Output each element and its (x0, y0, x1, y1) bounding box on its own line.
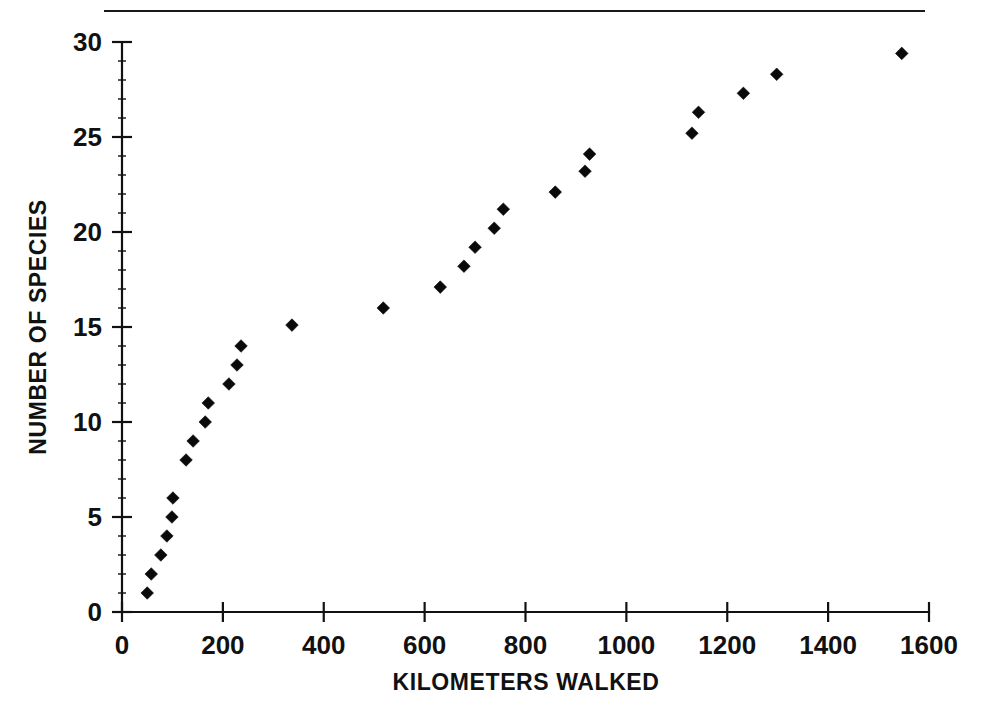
data-point-marker (231, 359, 244, 372)
y-axis-tick-label: 30 (73, 27, 102, 57)
x-axis-tick-label: 200 (201, 630, 244, 660)
x-axis-tick-label: 400 (302, 630, 345, 660)
data-point-marker (223, 378, 236, 391)
axes-group (122, 42, 929, 612)
x-axis-tick-label: 1000 (597, 630, 655, 660)
data-point-marker (161, 530, 174, 543)
data-point-marker (895, 47, 908, 60)
data-point-marker (434, 281, 447, 294)
x-axis-tick-label: 1400 (799, 630, 857, 660)
data-point-marker (549, 186, 562, 199)
data-point-marker (180, 454, 193, 467)
data-point-marker (141, 587, 154, 600)
data-point-marker (469, 241, 482, 254)
x-axis-tick-label: 1200 (698, 630, 756, 660)
data-point-marker (145, 568, 158, 581)
data-point-marker (202, 397, 215, 410)
data-point-marker (167, 492, 180, 505)
data-point-marker (155, 549, 168, 562)
x-axis-title: KILOMETERS WALKED (392, 669, 659, 695)
x-axis-tick-labels: 02004006008001000120014001600 (115, 630, 958, 660)
data-point-marker (187, 435, 200, 448)
x-axis-tick-label: 800 (504, 630, 547, 660)
x-axis-tick-label: 1600 (900, 630, 958, 660)
y-axis-tick-label: 15 (73, 312, 102, 342)
y-axis-tick-label: 0 (88, 597, 102, 627)
scatter-plot-canvas: 051015202530 020040060080010001200140016… (0, 0, 985, 712)
data-point-marker (199, 416, 212, 429)
y-axis-tick-label: 5 (88, 502, 102, 532)
data-point-marker (235, 340, 248, 353)
x-axis-tick-label: 0 (115, 630, 129, 660)
data-point-marker (770, 68, 783, 81)
data-point-marker (488, 222, 501, 235)
y-axis-tick-labels: 051015202530 (73, 27, 102, 627)
data-point-marker (579, 165, 592, 178)
y-axis-tick-label: 25 (73, 122, 102, 152)
data-point-marker (686, 127, 699, 140)
data-point-markers (141, 47, 908, 599)
data-point-marker (166, 511, 179, 524)
data-point-marker (377, 302, 390, 315)
figure-container: 051015202530 020040060080010001200140016… (0, 0, 985, 712)
y-axis-tick-label: 20 (73, 217, 102, 247)
data-point-marker (497, 203, 510, 216)
data-point-marker (692, 106, 705, 119)
x-axis-tick-label: 600 (403, 630, 446, 660)
y-axis-title: NUMBER OF SPECIES (25, 199, 51, 455)
data-point-marker (583, 148, 596, 161)
data-point-marker (458, 260, 471, 273)
data-point-marker (737, 87, 750, 100)
data-point-marker (286, 319, 299, 332)
y-axis-tick-label: 10 (73, 407, 102, 437)
